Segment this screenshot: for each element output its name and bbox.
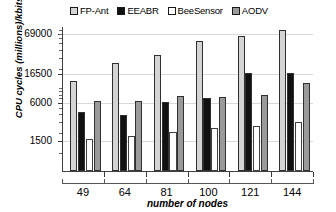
legend-entry-beesensor: BeeSensor [168,6,223,16]
x-tick-mark-origin [62,179,63,184]
legend-label-eeabr: EEABR [127,6,158,16]
bar-beesensor-81 [169,132,176,171]
x-tick-mark [313,172,314,177]
x-tick-mark [188,172,189,177]
bar-fp-ant-49 [70,81,77,171]
y-tick-mark [58,103,62,104]
y-minor-tick [59,98,62,99]
y-axis-title: CPU cycles (millions)/kbits [13,0,24,128]
bar-fp-ant-81 [154,55,161,171]
x-tick-mark [146,172,147,177]
x-tick-label: 81 [147,186,187,198]
y-minor-tick [59,88,62,89]
bar-eeabr-81 [162,102,169,171]
chart-legend: FP-Ant EEABR BeeSensor AODV [70,4,268,18]
gridline [63,34,313,35]
x-tick-mark [271,172,272,177]
bar-fp-ant-100 [196,41,203,171]
bar-beesensor-64 [128,136,135,171]
y-tick-mark [58,141,62,142]
bar-beesensor-144 [295,122,302,171]
y-tick-label: 16500 [24,69,52,79]
y-minor-tick [59,43,62,44]
bar-eeabr-144 [287,73,294,171]
x-tick-label: 121 [230,186,270,198]
legend-label-fp-ant: FP-Ant [80,6,108,16]
x-tick-label: 100 [188,186,228,198]
bar-beesensor-100 [211,128,218,171]
bar-eeabr-100 [203,98,210,171]
x-axis-title: number of nodes [62,198,313,209]
x-tick-mark-lower [229,179,230,184]
y-minor-tick [59,114,62,115]
bar-aodv-49 [94,101,101,171]
x-tick-label: 64 [105,186,145,198]
y-tick-label: 69000 [24,29,52,39]
bar-fp-ant-121 [238,36,245,171]
legend-label-beesensor: BeeSensor [178,6,223,16]
y-axis-labels: 150060001650069000 [0,0,58,212]
y-minor-tick [59,95,62,96]
legend-swatch-fp-ant [70,7,78,15]
y-minor-tick [59,69,62,70]
y-minor-tick [59,153,62,154]
plot-inner [63,27,313,171]
legend-entry-aodv: AODV [232,6,268,16]
bar-aodv-100 [219,97,226,172]
bar-eeabr-121 [245,73,252,171]
bar-aodv-144 [303,83,310,171]
legend-entry-eeabr: EEABR [117,6,158,16]
y-tick-mark [58,74,62,75]
bar-aodv-64 [135,101,142,171]
y-minor-tick [59,50,62,51]
bar-chart: FP-Ant EEABR BeeSensor AODV 150060001650… [0,0,336,212]
bar-fp-ant-64 [112,63,119,171]
bar-aodv-121 [261,95,268,171]
x-tick-mark-lower [188,179,189,184]
x-tick-mark-lower [104,179,105,184]
y-minor-tick [59,38,62,39]
y-minor-tick [59,91,62,92]
bar-beesensor-121 [253,126,260,171]
x-tick-mark [229,172,230,177]
legend-swatch-aodv [232,7,240,15]
y-minor-tick [59,108,62,109]
legend-label-aodv: AODV [242,6,268,16]
legend-swatch-eeabr [117,7,125,15]
bar-aodv-81 [177,96,184,171]
gridline [63,74,313,75]
x-tick-mark-lower [313,179,314,184]
legend-entry-fp-ant: FP-Ant [70,6,108,16]
y-tick-label: 6000 [30,98,52,108]
bar-eeabr-64 [120,115,127,171]
y-minor-tick [59,58,62,59]
x-tick-mark-lower [271,179,272,184]
y-minor-tick [59,30,62,31]
bar-fp-ant-144 [279,30,286,171]
y-minor-tick [59,133,62,134]
y-minor-tick [59,122,62,123]
bar-beesensor-49 [86,139,93,171]
bar-eeabr-49 [78,112,85,171]
plot-area [62,27,313,172]
x-tick-label: 144 [272,186,312,198]
y-tick-label: 1500 [30,136,52,146]
x-tick-mark-lower [146,179,147,184]
legend-swatch-beesensor [168,7,176,15]
x-tick-mark [104,172,105,177]
y-minor-tick [59,34,62,35]
x-tick-label: 49 [63,186,103,198]
